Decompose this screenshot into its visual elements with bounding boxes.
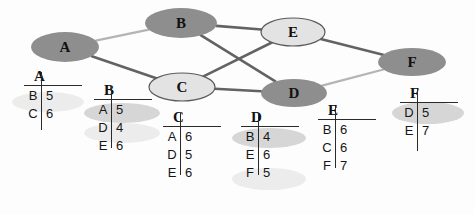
header-rule (241, 126, 299, 127)
header-rule (400, 102, 458, 103)
adjacency-weight-value: 5 (263, 164, 270, 182)
header-rule (94, 99, 152, 100)
adjacency-neighbor-key: B (27, 87, 39, 105)
graph-node-c[interactable]: C (149, 73, 215, 101)
node-label: D (289, 85, 300, 101)
adjacency-neighbor-key: E (244, 146, 256, 164)
adjacency-weight-value: 6 (116, 137, 123, 155)
graph-node-b[interactable]: B (145, 8, 217, 38)
adjacency-weight-value: 6 (185, 128, 192, 146)
adjacency-weight-value: 7 (422, 122, 429, 140)
adjacency-neighbor-key: A (166, 128, 178, 146)
graph-edge-b-e (216, 26, 261, 30)
column-divider (335, 106, 336, 168)
adjacency-neighbor-key: D (97, 119, 109, 137)
adjacency-weight-value: 6 (340, 139, 347, 157)
adjacency-weight-value: 5 (422, 104, 429, 122)
node-label: B (176, 15, 186, 31)
adjacency-neighbor-key: B (321, 121, 333, 139)
adjacency-neighbor-key: F (244, 164, 256, 182)
column-divider (258, 113, 259, 175)
header-rule (318, 119, 376, 120)
column-divider (417, 89, 418, 151)
node-label: F (407, 54, 416, 70)
graph-node-f[interactable]: F (378, 48, 446, 76)
graph-node-a[interactable]: A (31, 32, 99, 62)
graph-edge-a-c (92, 56, 156, 78)
adjacency-neighbor-key: A (97, 101, 109, 119)
adjacency-list-header: D (251, 110, 262, 124)
adjacency-neighbor-key: C (27, 105, 39, 123)
adjacency-weight-value: 5 (185, 146, 192, 164)
adjacency-weight-value: 6 (185, 164, 192, 182)
adjacency-list-header: E (328, 103, 338, 117)
column-divider (41, 72, 42, 130)
adjacency-weight-value: 6 (263, 146, 270, 164)
adjacency-weight-value: 4 (116, 119, 123, 137)
header-rule (163, 126, 221, 127)
graph-edges (92, 26, 383, 91)
adjacency-neighbor-key: D (166, 146, 178, 164)
adjacency-neighbor-key: E (166, 164, 178, 182)
adjacency-list-header: A (34, 69, 45, 83)
adjacency-neighbor-key: B (244, 128, 256, 146)
adjacency-weight-value: 7 (340, 157, 347, 175)
adjacency-weight-value: 6 (340, 121, 347, 139)
graph-edge-c-d (215, 89, 262, 91)
column-divider (180, 113, 181, 175)
adjacency-list-header: C (173, 110, 184, 124)
node-label: A (60, 39, 71, 55)
adjacency-neighbor-key: C (321, 139, 333, 157)
graph-edge-e-f (321, 39, 383, 55)
adjacency-neighbor-key: E (97, 137, 109, 155)
node-label: E (288, 24, 298, 40)
adjacency-weight-value: 4 (263, 128, 270, 146)
node-label: C (177, 79, 188, 95)
adjacency-neighbor-key: E (403, 122, 415, 140)
adjacency-weight-value: 5 (116, 101, 123, 119)
graph-edge-d-f (322, 70, 383, 86)
adjacency-list-header: B (104, 83, 114, 97)
column-divider (111, 86, 112, 148)
adjacency-neighbor-key: D (403, 104, 415, 122)
graph-node-e[interactable]: E (261, 18, 325, 46)
adjacency-weight-value: 5 (46, 87, 53, 105)
adjacency-weight-value: 6 (46, 105, 53, 123)
graph-edge-a-b (96, 30, 149, 41)
header-rule (24, 85, 82, 86)
graph-node-d[interactable]: D (261, 79, 327, 107)
adjacency-neighbor-key: F (321, 157, 333, 175)
figure-canvas: ABCDEF AB5C6BA5D4E6CA6D5E6DB4E6F5EB6C6F7… (0, 0, 475, 215)
graph-edge-c-e (203, 42, 271, 76)
